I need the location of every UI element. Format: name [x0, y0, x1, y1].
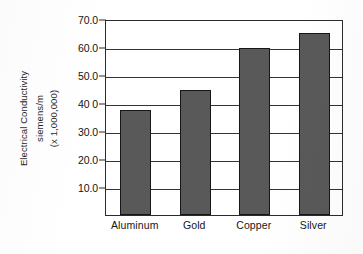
x-axis-tick-labels: AluminumGoldCopperSilver [105, 219, 343, 239]
bar-chart-figure: Electrical Conductivity siemens/m (x 1,0… [0, 0, 363, 254]
y-axis-tick-label: 20.0 [78, 154, 98, 166]
y-axis-tick-label: 50.0 [78, 70, 98, 82]
y-axis-title-line-2: siemens/m [34, 95, 45, 142]
x-axis-tick-label: Silver [300, 219, 327, 231]
x-axis-tick-label: Copper [236, 219, 271, 231]
y-axis-title-line-1: Electrical Conductivity [19, 70, 30, 165]
bar-aluminum [120, 110, 151, 215]
y-axis-tick-label: 60.0 [78, 42, 98, 54]
bars-layer [106, 21, 342, 215]
y-axis-title-line-1-wrap: Electrical Conductivity [17, 20, 32, 216]
y-axis-title-line-2-wrap: siemens/m [32, 20, 47, 216]
x-axis-tick-label: Gold [183, 219, 206, 231]
y-axis-tick-label: 40 0 [78, 98, 98, 110]
plot-area [105, 20, 343, 216]
y-axis-title: Electrical Conductivity siemens/m (x 1,0… [16, 20, 62, 216]
y-axis-tick-labels: 70.060.050.040 030.020.010.0 [58, 0, 98, 254]
y-axis-tick-label: 10.0 [78, 182, 98, 194]
bar-silver [299, 33, 330, 215]
y-axis-tick-label: 70.0 [78, 14, 98, 26]
x-axis-tick-label: Aluminum [111, 219, 158, 231]
y-axis-tick-label: 30.0 [78, 126, 98, 138]
bar-gold [180, 90, 211, 215]
bar-copper [239, 48, 270, 215]
